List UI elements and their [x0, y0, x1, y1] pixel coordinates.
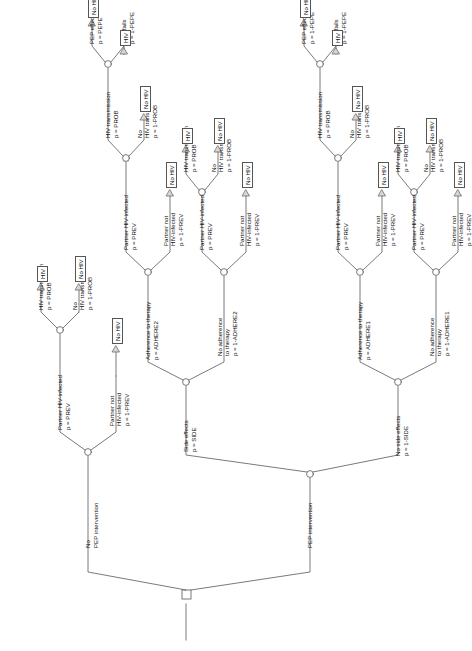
leaf-no-hiv-notprev-d: No HIV [454, 162, 465, 188]
prob-label-not-prob-nopep: p = 1-PROB [86, 277, 93, 310]
edge-pep-side-effects [186, 386, 307, 472]
terminal-triangle [455, 190, 462, 196]
leaf-hiv-trans-b: HIV [182, 128, 193, 144]
prob-label-prev-b: p = PREV [206, 223, 213, 250]
branch-label-partner-not-d-line2: HIV-infected [457, 213, 464, 246]
branch-label-no-pep-line1: No [84, 540, 91, 548]
prob-label-not-prob-a: p = 1-PROB [151, 105, 158, 138]
chance-node-nopep-prob [57, 327, 64, 334]
leaf-no-hiv-notprev-a: No HIV [166, 162, 177, 188]
prob-label-not-prev-b: p = 1-PREV [253, 214, 260, 246]
prob-label-prev-a: p = PREV [130, 223, 137, 250]
prob-label-prob-c: p = PROB [324, 110, 331, 138]
chance-node-nopep-prev [85, 449, 92, 456]
branch-label-partner-infected-b: Partner HIV-infected [198, 195, 205, 250]
leaf-no-hiv-notprev-b: No HIV [242, 162, 253, 188]
prob-label-pepe-a: p = PEPE [96, 17, 103, 44]
prob-label-prob-b: p = PROB [190, 144, 197, 172]
leaf-no-hiv-notrans-d: No HIV [426, 118, 437, 144]
branch-label-partner-infected-c: Partner HIV-infected [334, 195, 341, 250]
leaf-hiv-nopep: HIV [37, 266, 48, 282]
branch-label-partner-not-c-line2: HIV-infected [381, 213, 388, 246]
prob-label-not-prev-nopep: p = 1-PREV [123, 394, 130, 426]
leaf-no-hiv-pepe-c: No HIV [300, 0, 311, 18]
prob-label-adhere1: p = ADHERE1 [364, 321, 371, 360]
prob-label-not-prob-d2: p = 1-PROB [437, 139, 444, 172]
branch-label-transmission-c: HIV transmission [316, 92, 323, 138]
chance-node-pepe-a [105, 61, 112, 68]
branch-label-partner-infected-a: Partner HIV-infected [122, 195, 129, 250]
chance-node-prev-d [433, 269, 440, 276]
prob-label-not-prev-c: p = 1-PREV [389, 214, 396, 246]
branch-label-pep: PEP intervention [306, 503, 313, 548]
prob-label-prev-nopep: p = PREV [64, 403, 71, 430]
prob-label-not-prev-a: p = 1-PREV [177, 214, 184, 246]
branch-label-no-side-effects: No side effects [394, 416, 401, 456]
prob-label-prob-a: p = PROB [112, 110, 119, 138]
edge-nopep-no-transmission [63, 312, 79, 328]
terminal-triangle [379, 190, 386, 196]
chance-node-prob-a [123, 155, 130, 162]
branch-label-no-adherence-d-line2: to therapy [435, 329, 442, 356]
prob-label-not-adhere2: p = 1-ADHERE2 [231, 311, 238, 356]
terminal-triangle [167, 190, 174, 196]
prob-label-prob-nopep: p = PROB [45, 282, 52, 310]
chance-node-pep-side [307, 471, 314, 478]
edge-pep-no-side-effects [313, 386, 398, 472]
chance-node-noside-adhere1 [395, 379, 402, 386]
branch-label-no-adherence-b-line2: to therapy [223, 329, 230, 356]
prob-label-not-prob-b: p = 1-PROB [225, 139, 232, 172]
leaf-hiv-pepfail-a: HIV [120, 30, 131, 46]
edge-prob-a-no-transmission [129, 120, 144, 156]
prob-label-prev-c: p = PREV [342, 223, 349, 250]
leaf-no-hiv-notrans-a: No HIV [140, 86, 151, 112]
leaf-no-hiv-notprev-c: No HIV [378, 162, 389, 188]
prob-label-side: p = SIDE [190, 427, 197, 452]
chance-node-prob-c [335, 155, 342, 162]
prob-label-no-side: p = 1-SIDE [402, 426, 409, 456]
edge-nopep-partner-infected [60, 333, 85, 450]
leaf-no-hiv-notrans-b: No HIV [214, 118, 225, 144]
terminal-triangle [243, 190, 250, 196]
leaf-no-hiv-pepe-a: No HIV [88, 0, 99, 18]
prob-label-prev-d: p = PREV [418, 223, 425, 250]
leaf-no-hiv-notprev-nopep: No HIV [112, 318, 123, 344]
chance-node-prev-a [145, 269, 152, 276]
root-square-node [182, 590, 191, 599]
edge-prob-c-no-transmission [341, 120, 356, 156]
chance-node-prev-c [357, 269, 364, 276]
prob-label-adhere2: p = ADHERE2 [152, 321, 159, 360]
branch-label-no-pep-line2: PEP intervention [92, 503, 99, 548]
prob-label-not-prev-d: p = 1-PREV [465, 214, 472, 246]
prob-label-not-prob-c: p = 1-PROB [363, 105, 370, 138]
branch-label-adherence-c: Adherence to therapy [356, 302, 363, 360]
edge-root-to-pep [191, 478, 310, 590]
branch-label-partner-infected-nopep: Partner HIV-infected [56, 375, 63, 430]
branch-label-partner-infected-d: Partner HIV-infected [410, 195, 417, 250]
branch-label-side-effects: Side effects [182, 420, 189, 452]
prob-label-not-adhere1: p = 1-ADHERE1 [443, 311, 450, 356]
branch-label-adherence-a: Adherence to therapy [144, 302, 151, 360]
leaf-no-hiv-notrans-c: No HIV [352, 86, 363, 112]
chance-node-prev-b [221, 269, 228, 276]
leaf-hiv-trans-d: HIV [394, 128, 405, 144]
branch-label-partner-not-a-line2: HIV-infected [169, 213, 176, 246]
terminal-triangle [113, 346, 120, 352]
branch-label-partner-not-b-line2: HIV-infected [245, 213, 252, 246]
prob-label-prob-d: p = PROB [402, 144, 409, 172]
branch-label-transmission-a: HIV transmission [104, 92, 111, 138]
chance-node-pepe-c [317, 61, 324, 68]
branch-label-partner-not-nopep-line2: HIV-infected [115, 393, 122, 426]
leaf-hiv-pepfail-c: HIV [332, 30, 343, 46]
leaf-no-hiv-nopep: No HIV [75, 256, 86, 282]
edge-root-to-nopep [88, 456, 186, 590]
chance-node-side-adhere2 [183, 379, 190, 386]
